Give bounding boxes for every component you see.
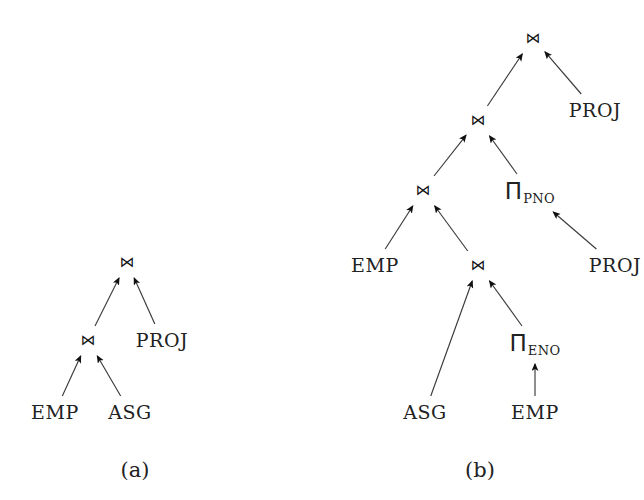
projection-pi-symbol: Π [505, 178, 522, 204]
node-b-emp-2: EMP [511, 403, 559, 422]
projection-pi-symbol: Π [509, 330, 526, 356]
node-b-proj-rel-2: PROJ [589, 256, 642, 275]
edge-b-join-3-to-b-join-2 [434, 135, 466, 176]
edge-b-pi-pno-to-b-join-2 [490, 136, 517, 174]
projection-attribute-subscript: PNO [523, 190, 555, 205]
join-operator-a-root-join: ⋈ [120, 255, 135, 270]
node-b-pi-eno: ΠENO [509, 332, 560, 357]
node-a-proj-rel: PROJ [136, 331, 189, 350]
edge-a-asg-to-a-join-2 [97, 356, 120, 396]
node-a-asg: ASG [108, 403, 152, 422]
join-operator-b-join-4: ⋈ [471, 258, 486, 273]
edge-a-join-2-to-a-root-join [95, 278, 119, 326]
edge-a-emp-to-a-join-2 [62, 356, 80, 396]
join-operator-b-join-3: ⋈ [416, 183, 431, 198]
node-a-emp: EMP [31, 403, 79, 422]
join-operator-b-root-join: ⋈ [526, 31, 541, 46]
node-b-pi-pno: ΠPNO [505, 180, 555, 205]
edge-a-proj-rel-to-a-root-join [134, 278, 155, 324]
query-tree-figure: ⋈⋈PROJEMPASG⋈⋈PROJ⋈ΠPNOEMP⋈PROJASGΠENOEM… [0, 0, 644, 500]
edge-layer [0, 0, 644, 500]
edge-b-proj-rel-1-to-b-root-join [545, 52, 581, 94]
caption-b: (b) [465, 458, 495, 482]
join-operator-a-join-2: ⋈ [81, 333, 96, 348]
caption-a: (a) [121, 458, 150, 482]
edge-b-join-4-to-b-join-3 [435, 206, 468, 251]
node-b-emp-1: EMP [351, 256, 399, 275]
edge-b-join-2-to-b-root-join [487, 54, 522, 106]
join-operator-b-join-2: ⋈ [471, 113, 486, 128]
edge-b-emp-1-to-b-join-3 [385, 206, 413, 249]
node-b-asg: ASG [403, 403, 447, 422]
edge-b-pi-eno-to-b-join-4 [490, 281, 522, 326]
edge-b-proj-rel-2-to-b-pi-pno [553, 212, 596, 249]
node-b-proj-rel-1: PROJ [569, 101, 622, 120]
edge-b-asg-to-b-join-4 [431, 281, 472, 396]
projection-attribute-subscript: ENO [528, 342, 561, 357]
